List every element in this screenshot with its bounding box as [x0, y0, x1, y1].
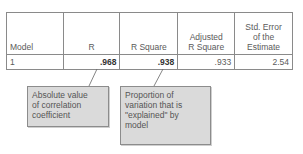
- leader-line-r-square: [154, 69, 163, 86]
- callout-1-line3: coefficient: [32, 110, 104, 120]
- callout-r-square-explanation: Proportion of variation that is "explain…: [120, 86, 211, 145]
- callout-r-explanation: Absolute value of correlation coefficien…: [27, 86, 109, 127]
- callout-2-line3: "explained" by: [125, 110, 206, 120]
- leader-line-r: [89, 69, 97, 86]
- callout-2-line1: Proportion of: [125, 90, 206, 100]
- callout-1-line1: Absolute value: [32, 90, 104, 100]
- callout-2-line2: variation that is: [125, 100, 206, 110]
- callout-1-line2: of correlation: [32, 100, 104, 110]
- callout-2-line4: model: [125, 120, 206, 130]
